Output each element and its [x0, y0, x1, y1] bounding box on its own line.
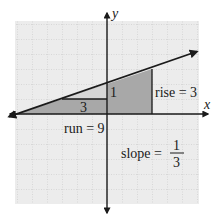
small-run-label: 3: [80, 100, 87, 115]
slope-prefix: slope =: [121, 146, 162, 161]
small-rise-label: 1: [110, 85, 117, 100]
x-axis-label: x: [203, 97, 211, 112]
run-label: run = 9: [64, 121, 105, 136]
rise-label: rise = 3: [155, 85, 197, 100]
slope-denominator: 3: [173, 155, 180, 170]
y-axis-label: y: [110, 6, 119, 21]
slope-diagram: y x 1 3 rise = 3 run = 9 slope = 1 3: [0, 0, 218, 222]
slope-numerator: 1: [173, 138, 180, 153]
